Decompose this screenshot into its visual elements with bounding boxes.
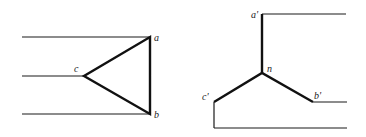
label-n: n bbox=[267, 63, 272, 74]
branches-b-c-prime bbox=[214, 73, 313, 102]
wye-diagram: a' n c' b' bbox=[202, 9, 347, 128]
diagram-canvas: a c b a' n c' b' bbox=[0, 0, 366, 137]
label-b-prime: b' bbox=[314, 90, 322, 101]
label-c: c bbox=[74, 63, 79, 74]
delta-diagram: a c b bbox=[22, 32, 159, 120]
label-a: a bbox=[154, 32, 159, 43]
delta-triangle bbox=[84, 37, 150, 114]
label-b: b bbox=[154, 109, 159, 120]
label-a-prime: a' bbox=[251, 9, 259, 20]
label-c-prime: c' bbox=[202, 91, 209, 102]
